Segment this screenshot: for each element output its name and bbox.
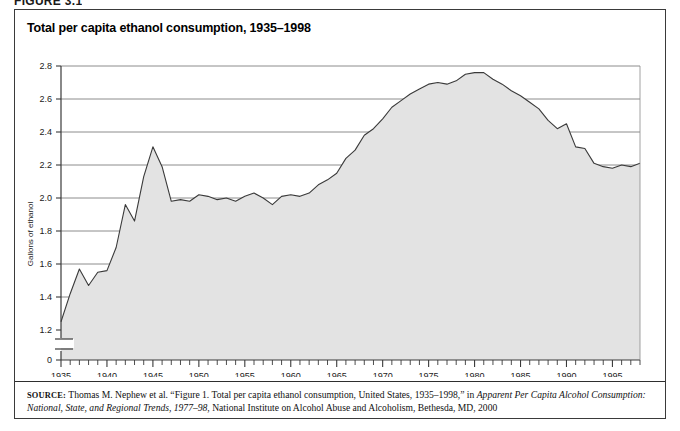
figure-number-label: FIGURE 3.1 bbox=[14, 0, 82, 6]
x-axis-tick-label: 1985 bbox=[511, 371, 531, 377]
source-text-part-2: , National Institute on Alcohol Abuse an… bbox=[207, 402, 497, 413]
x-axis-tick-label: 1945 bbox=[143, 371, 163, 377]
x-axis-tick-label: 1950 bbox=[189, 371, 209, 377]
x-axis-tick-label: 1960 bbox=[281, 371, 301, 377]
y-axis-tick-label: 2.6 bbox=[39, 94, 52, 104]
y-axis-tick-label: 2.2 bbox=[39, 160, 52, 170]
y-axis-tick-label-zero: 0 bbox=[47, 355, 52, 365]
y-axis-tick-label: 2.0 bbox=[39, 193, 52, 203]
x-axis-tick-label: 1980 bbox=[465, 371, 485, 377]
y-axis-tick-label: 2.4 bbox=[39, 127, 52, 137]
x-axis-tick-label: 1955 bbox=[235, 371, 255, 377]
source-divider bbox=[15, 381, 665, 382]
axis-break-gap bbox=[52, 339, 74, 348]
x-axis-tick-label: 1940 bbox=[97, 371, 117, 377]
x-axis-tick-label: 1995 bbox=[602, 371, 622, 377]
area-series-group bbox=[61, 73, 640, 360]
y-axis-tick-label: 1.4 bbox=[39, 292, 52, 302]
area-fill-path bbox=[61, 73, 640, 360]
source-text-part-1: Thomas M. Nephew et al. “Figure 1. Total… bbox=[68, 389, 476, 400]
x-axis-tick-label: 1970 bbox=[373, 371, 393, 377]
y-axis-tick-label: 1.8 bbox=[39, 226, 52, 236]
x-axis-tick-label: 1990 bbox=[556, 371, 576, 377]
y-axis-title: Gallons of ethanol bbox=[26, 202, 35, 267]
figure-title: Total per capita ethanol consumption, 19… bbox=[27, 21, 311, 35]
x-axis-tick-label: 1965 bbox=[327, 371, 347, 377]
y-axis-tick-label: 2.8 bbox=[39, 61, 52, 71]
x-axis-tick-label: 1975 bbox=[419, 371, 439, 377]
x-axis-tick-label: 1935 bbox=[51, 371, 71, 377]
y-axis-tick-label: 1.2 bbox=[39, 325, 52, 335]
source-prefix-label: SOURCE: bbox=[27, 391, 66, 400]
y-axis-tick-label: 1.6 bbox=[39, 259, 52, 269]
figure-container: Total per capita ethanol consumption, 19… bbox=[14, 9, 666, 419]
source-note: SOURCE: Thomas M. Nephew et al. “Figure … bbox=[27, 389, 655, 415]
chart-plot-area: 2.82.62.42.22.01.81.61.41.20 19351940194… bbox=[15, 39, 665, 377]
ethanol-consumption-area-chart: 2.82.62.42.22.01.81.61.41.20 19351940194… bbox=[15, 39, 665, 377]
